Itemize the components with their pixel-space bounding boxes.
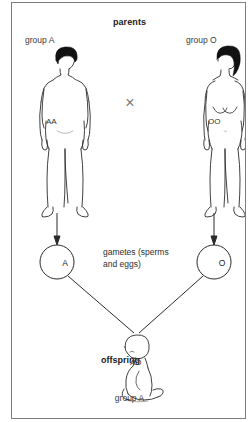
offspring-label: offspring <box>32 355 140 365</box>
mother-figure <box>204 46 246 217</box>
diagram-frame: parents group A group O <box>11 2 246 419</box>
gamete-arrow-left <box>54 213 60 245</box>
offspring-group-label: group A <box>12 393 246 403</box>
gamete-label-left: A <box>52 258 78 268</box>
father-figure <box>40 47 91 217</box>
offspring-genotype: AO <box>130 358 142 367</box>
gametes-caption-line-1: gametes (sperms <box>103 247 169 257</box>
gamete-label-right: O <box>209 258 235 268</box>
baby-figure <box>122 335 163 402</box>
fertilisation-lines <box>68 276 203 333</box>
gametes-caption-line-2: and eggs) <box>103 259 141 269</box>
gametes-caption: gametes (spermsand eggs) <box>103 247 189 270</box>
parent-left-genotype: AA <box>46 117 57 126</box>
parent-right-genotype: OO <box>208 117 220 126</box>
cross-symbol: × <box>105 95 155 111</box>
gamete-arrow-right <box>211 213 217 245</box>
